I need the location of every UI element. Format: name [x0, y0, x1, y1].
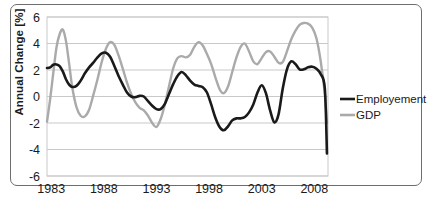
y-tick-label: -2 [29, 117, 40, 131]
line-chart: -6-4-20246198319881993199820032008Employ… [0, 0, 434, 211]
x-tick-label: 1983 [37, 182, 65, 196]
y-tick-label: 6 [33, 11, 40, 25]
x-tick-label: 1993 [143, 182, 171, 196]
x-tick-label: 1998 [195, 182, 223, 196]
x-tick-label: 1988 [90, 182, 118, 196]
legend-label-0: Employement [356, 93, 427, 105]
legend-label-1: GDP [356, 109, 381, 121]
x-tick-label: 2008 [300, 182, 328, 196]
y-tick-label: -4 [29, 143, 40, 157]
x-tick-label: 2003 [248, 182, 276, 196]
chart-figure: Annual Change [%] -6-4-20246198319881993… [0, 0, 434, 211]
y-tick-label: 0 [33, 90, 40, 104]
y-tick-label: 4 [33, 37, 40, 51]
y-tick-label: 2 [33, 64, 40, 78]
